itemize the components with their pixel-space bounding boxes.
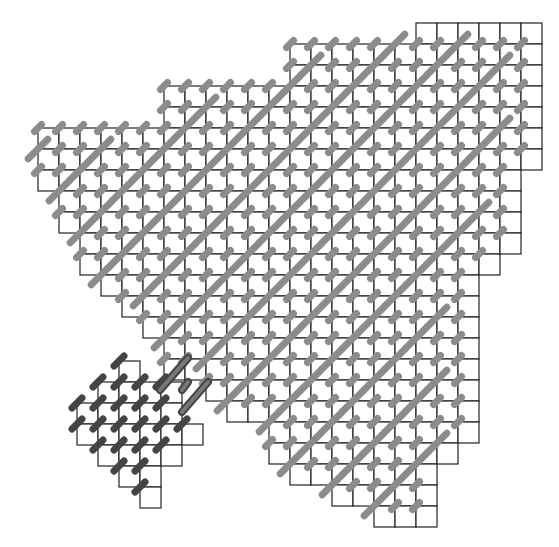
bond-segment [266, 251, 273, 258]
bond-segment [392, 83, 399, 90]
bond-segment [371, 83, 378, 90]
bond-segment [266, 125, 273, 132]
bond-segment [497, 146, 504, 153]
bond-segment [455, 209, 462, 216]
bond-segment [98, 188, 105, 195]
bond-segment [392, 251, 399, 258]
bond-segment [182, 167, 189, 174]
bond-segment [497, 83, 504, 90]
bond-segment [371, 419, 378, 426]
bond-segment [413, 62, 420, 69]
bond-segment [455, 314, 462, 321]
bond-segment [476, 62, 483, 69]
bond-segment [392, 272, 399, 279]
bond-segment [392, 335, 399, 342]
bond-segment [119, 167, 126, 174]
bond-segment [329, 62, 336, 69]
bond-segment [224, 251, 231, 258]
bond-segment [476, 230, 483, 237]
bond-segment [161, 230, 168, 237]
bond-segment [350, 167, 357, 174]
bond-segment [182, 83, 189, 90]
bond-segment [287, 419, 294, 426]
bond-segment [371, 356, 378, 363]
bond-segment [413, 251, 420, 258]
bond-segment [203, 125, 210, 132]
bond-segment [392, 125, 399, 132]
bond-segment [224, 293, 231, 300]
bond-segment [434, 419, 441, 426]
bond-segment [371, 209, 378, 216]
bond-segment [98, 167, 105, 174]
bond-segment [371, 146, 378, 153]
bond-segment [350, 125, 357, 132]
bond-segment [245, 356, 252, 363]
bond-segment [203, 209, 210, 216]
bond-segment [497, 41, 504, 48]
bond-segment [371, 104, 378, 111]
bond-segment [434, 272, 441, 279]
bond-segment [98, 125, 105, 132]
bond-segment [182, 230, 189, 237]
bond-segment [287, 230, 294, 237]
bond-segment [413, 230, 420, 237]
bond-segment [287, 104, 294, 111]
bond-segment [224, 356, 231, 363]
bond-segment [161, 251, 168, 258]
bond-segment [434, 209, 441, 216]
bond-segment [224, 230, 231, 237]
bond-segment [161, 314, 168, 321]
bond-segment [245, 398, 252, 405]
bond-segment [518, 83, 525, 90]
bond-segment [476, 104, 483, 111]
bond-segment [308, 272, 315, 279]
bond-segment [308, 146, 315, 153]
bond-segment [287, 62, 294, 69]
bond-segment [287, 440, 294, 447]
bond-segment [308, 83, 315, 90]
bond-segment [308, 104, 315, 111]
bond-segment [161, 293, 168, 300]
bond-segment [287, 293, 294, 300]
bond-segment [455, 146, 462, 153]
bond-segment [413, 440, 420, 447]
bond-segment [329, 377, 336, 384]
cropped-title-fragment [232, 0, 240, 4]
bond-segment [329, 209, 336, 216]
bond-segment [350, 62, 357, 69]
bond-segment [392, 440, 399, 447]
bond-segment [413, 188, 420, 195]
bond-segment [203, 272, 210, 279]
bond-segment [287, 251, 294, 258]
bond-segment [266, 146, 273, 153]
bond-segment [182, 335, 189, 342]
bond-segment [455, 335, 462, 342]
bond-segment [161, 104, 168, 111]
bond-segment [518, 146, 525, 153]
bond-segment [413, 482, 420, 489]
bond-segment [140, 209, 147, 216]
bond-segment [329, 188, 336, 195]
bond-segment [308, 293, 315, 300]
bond-segment [35, 167, 42, 174]
bond-segment [455, 377, 462, 384]
bond-segment [77, 251, 84, 258]
bond-segment [497, 188, 504, 195]
bond-segment [350, 482, 357, 489]
bond-segment [119, 146, 126, 153]
bond-segment [224, 188, 231, 195]
bond-segment [455, 356, 462, 363]
bond-segment [371, 482, 378, 489]
bond-segment [371, 230, 378, 237]
bond-segment [371, 293, 378, 300]
bond-segment [308, 230, 315, 237]
bond-segment [476, 188, 483, 195]
lattice-cell [521, 149, 542, 170]
bond-segment [371, 41, 378, 48]
bond-segment [455, 398, 462, 405]
bond-segment [203, 314, 210, 321]
bond-segment [308, 356, 315, 363]
bond-segment [77, 125, 84, 132]
bond-segment [413, 377, 420, 384]
bond-segment [77, 188, 84, 195]
